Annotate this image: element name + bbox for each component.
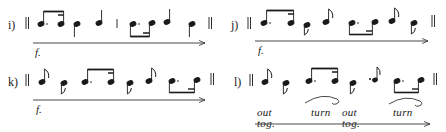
turn-arc-icon [305,96,339,104]
barline-double-end [209,17,212,29]
barline-double-start [26,17,29,29]
turn-arc-icon [389,98,422,106]
rhythm-notation [0,0,446,132]
